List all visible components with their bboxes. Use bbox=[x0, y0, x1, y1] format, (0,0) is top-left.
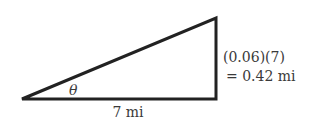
height-label-line2: = 0.42 mi bbox=[226, 68, 296, 84]
angle-label: θ bbox=[69, 82, 78, 98]
triangle-diagram: θ 7 mi (0.06)(7) = 0.42 mi bbox=[0, 0, 315, 127]
right-triangle bbox=[22, 18, 216, 99]
base-label: 7 mi bbox=[112, 104, 144, 120]
height-label-line1: (0.06)(7) bbox=[223, 49, 285, 65]
